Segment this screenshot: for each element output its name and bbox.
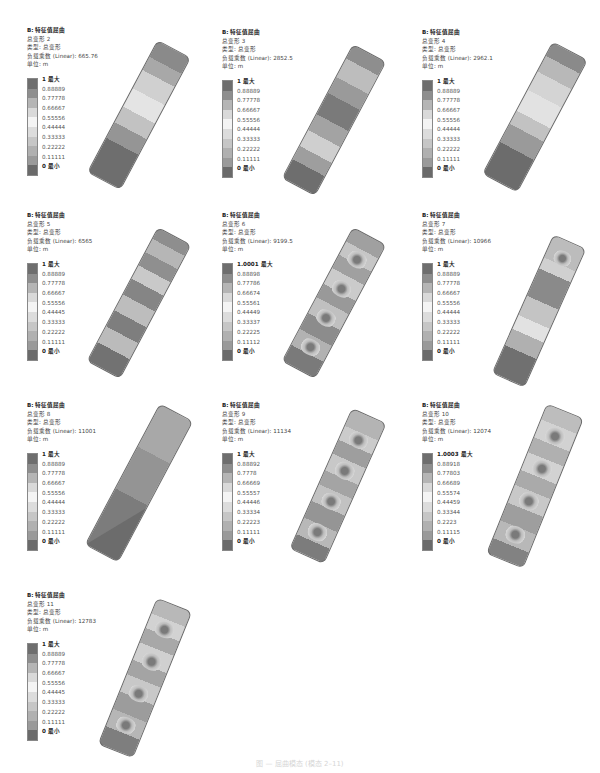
legend-band (28, 79, 37, 89)
unit-label: 单位: m (222, 435, 291, 444)
legend-band (223, 129, 232, 139)
load-multiplier: 负载乘数 (Linear): 11001 (27, 427, 96, 436)
legend-tick-label: 0.11112 (237, 338, 273, 348)
load-multiplier: 负载乘数 (Linear): 2852.5 (222, 54, 293, 63)
legend-band (28, 98, 37, 108)
legend-band (423, 119, 432, 129)
legend-tick-label: 0.55556 (42, 679, 65, 689)
legend-band (28, 156, 37, 166)
mode-panel: B: 特征值屈曲总变形 4类型: 总变形负载乘数 (Linear): 2962.… (415, 22, 600, 207)
legend-band (423, 492, 432, 502)
local-buckle-spot (344, 248, 371, 272)
legend-tick-label: 0.44459 (437, 498, 473, 508)
legend-band (223, 139, 232, 149)
legend-band (28, 521, 37, 531)
legend-band (28, 117, 37, 127)
legend-band (28, 146, 37, 156)
legend-tick-label: 0.11111 (42, 153, 65, 163)
legend-max-label: 1 最大 (42, 75, 65, 85)
analysis-title: B: 特征值屈曲 (27, 211, 92, 220)
type-label: 类型: 总变形 (27, 418, 96, 427)
legend-tick-label: 0.88889 (237, 87, 260, 97)
legend-tick-label: 0.44444 (42, 123, 65, 133)
type-label: 类型: 总变形 (27, 608, 96, 617)
legend-band (28, 502, 37, 512)
local-buckle-spot (502, 522, 530, 546)
legend-band (223, 167, 232, 177)
deformed-column-shape (85, 403, 194, 562)
legend-band (28, 165, 37, 175)
legend-tick-label: 0.77778 (42, 94, 65, 104)
legend-max-label: 1 最大 (237, 450, 260, 460)
analysis-title: B: 特征值屈曲 (422, 28, 493, 37)
unit-label: 单位: m (27, 625, 96, 634)
legend-band (223, 322, 232, 332)
legend-tick-label: 0.55556 (437, 116, 460, 126)
legend-band (223, 350, 232, 360)
legend-min-label: 0 最小 (42, 347, 65, 357)
legend-band (28, 293, 37, 303)
legend-band (28, 464, 37, 474)
legend-tick-label: 0.33333 (437, 135, 460, 145)
legend-tick-label: 0.22225 (237, 328, 273, 338)
legend-band (423, 531, 432, 541)
legend-tick-label: 0.55556 (437, 299, 460, 309)
legend-band (28, 454, 37, 464)
legend-band (223, 158, 232, 168)
legend-band (28, 721, 37, 731)
local-buckle-spot (550, 247, 575, 269)
local-buckle-spot (345, 429, 371, 453)
legend-band (423, 521, 432, 531)
analysis-title: B: 特征值屈曲 (27, 591, 96, 600)
legend-tick-label: 0.22223 (237, 518, 260, 528)
legend-tick-label: 0.66667 (42, 669, 65, 679)
legend-band (423, 158, 432, 168)
load-multiplier: 负载乘数 (Linear): 6565 (27, 237, 92, 246)
legend-band (223, 454, 232, 464)
result-header: B: 特征值屈曲总变形 7类型: 总变形负载乘数 (Linear): 10966… (422, 211, 491, 254)
legend-band (28, 692, 37, 702)
legend-band (423, 283, 432, 293)
mode-label: 总变形 9 (222, 410, 291, 419)
analysis-title: B: 特征值屈曲 (422, 211, 491, 220)
legend-tick-label: 0.66669 (237, 479, 260, 489)
legend-band (28, 350, 37, 360)
legend-band (28, 492, 37, 502)
legend-tick-label: 0.22222 (437, 328, 460, 338)
local-buckle-spot (304, 520, 330, 544)
legend-tick-label: 0.7778 (237, 469, 260, 479)
legend-tick-label: 0.77778 (42, 469, 65, 479)
deformed-column-shape (87, 40, 191, 190)
legend-min-label: 0 最小 (437, 164, 460, 174)
result-header: B: 特征值屈曲总变形 6类型: 总变形负载乘数 (Linear): 9199.… (222, 211, 293, 254)
legend-band (423, 454, 432, 464)
legend-band (223, 148, 232, 158)
legend-band (423, 312, 432, 322)
legend-tick-label: 0.77778 (42, 279, 65, 289)
legend-tick-label: 0.44444 (437, 125, 460, 135)
legend-tick-label: 0.55561 (237, 299, 273, 309)
local-buckle-spot (332, 459, 358, 483)
legend-band (423, 110, 432, 120)
legend-tick-label: 0.44444 (237, 125, 260, 135)
legend-band (423, 167, 432, 177)
legend-band (28, 473, 37, 483)
legend-band (423, 81, 432, 91)
legend-tick-label: 0.22222 (42, 328, 65, 338)
legend-tick-label: 0.55556 (42, 114, 65, 124)
legend-band (28, 512, 37, 522)
legend-max-label: 1 最大 (42, 640, 65, 650)
legend-band (28, 264, 37, 274)
legend-band (423, 512, 432, 522)
legend-band (423, 148, 432, 158)
legend-band (28, 730, 37, 740)
local-buckle-spot (328, 277, 355, 301)
legend-band (28, 540, 37, 550)
legend-band (223, 331, 232, 341)
legend-tick-label: 0.77803 (437, 469, 473, 479)
legend-tick-label: 0.33333 (437, 318, 460, 328)
legend-min-label: 0 最小 (437, 537, 473, 547)
legend-band (423, 341, 432, 351)
legend-band (423, 139, 432, 149)
mode-label: 总变形 8 (27, 410, 96, 419)
